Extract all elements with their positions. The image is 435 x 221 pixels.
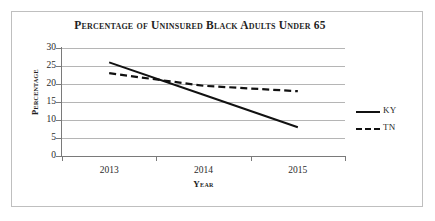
chart-legend: KYTN: [356, 104, 416, 138]
legend-label: TN: [383, 122, 395, 132]
y-axis-tick: [56, 102, 62, 103]
series-line-ky: [109, 62, 298, 127]
chart-figure: Percentage of Uninsured Black Adults Und…: [0, 0, 435, 221]
y-axis-tick: [56, 48, 62, 49]
legend-line-swatch-solid: [356, 111, 380, 113]
legend-item-tn[interactable]: TN: [356, 121, 416, 138]
x-axis-tick: [156, 156, 157, 161]
y-axis-tick: [56, 84, 62, 85]
x-axis-tick-label: 2015: [268, 165, 328, 175]
y-axis-tick: [56, 120, 62, 121]
legend-label: KY: [383, 105, 396, 115]
legend-line-swatch-dashed: [356, 128, 380, 130]
series-line-tn: [109, 73, 298, 91]
legend-item-ky[interactable]: KY: [356, 104, 416, 121]
x-axis-tick: [62, 156, 63, 161]
x-axis-tick-label: 2013: [79, 165, 139, 175]
x-axis-tick-label: 2014: [174, 165, 234, 175]
y-axis-tick: [56, 66, 62, 67]
x-axis-tick: [345, 156, 346, 161]
x-axis-tick: [251, 156, 252, 161]
y-axis-tick: [56, 138, 62, 139]
